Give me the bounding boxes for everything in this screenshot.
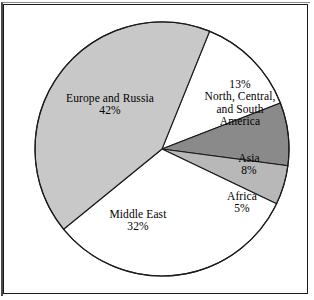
pie-slices bbox=[35, 22, 289, 276]
pie-chart-canvas bbox=[0, 0, 314, 300]
pie-label-africa-name: Africa bbox=[210, 190, 274, 202]
pie-label-asia-value: 8% bbox=[212, 164, 286, 176]
pie-label-europe-russia-value: 42% bbox=[44, 104, 176, 116]
pie-label-africa-value: 5% bbox=[210, 202, 274, 214]
pie-label-americas-name-line2: and South bbox=[186, 103, 294, 115]
pie-label-asia: Asia 8% bbox=[212, 152, 286, 177]
pie-label-americas-value: 13% bbox=[186, 78, 294, 90]
pie-label-middle-east-name: Middle East bbox=[78, 208, 198, 220]
pie-label-europe-russia: Europe and Russia 42% bbox=[44, 92, 176, 117]
pie-chart-figure: Europe and Russia 42% 13% North, Central… bbox=[0, 0, 314, 300]
pie-label-middle-east-value: 32% bbox=[78, 220, 198, 232]
pie-label-middle-east: Middle East 32% bbox=[78, 208, 198, 233]
pie-label-asia-name: Asia bbox=[212, 152, 286, 164]
pie-label-americas-name-line3: America bbox=[186, 115, 294, 127]
pie-label-americas-name-line1: North, Central, bbox=[186, 90, 294, 102]
pie-label-americas: 13% North, Central, and South America bbox=[186, 78, 294, 128]
pie-label-africa: Africa 5% bbox=[210, 190, 274, 215]
pie-label-europe-russia-name: Europe and Russia bbox=[44, 92, 176, 104]
